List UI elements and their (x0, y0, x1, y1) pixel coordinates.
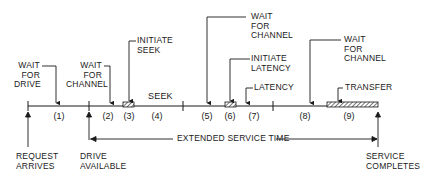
segment-label-8: (8) (300, 111, 311, 121)
initiate-seek-block (123, 102, 134, 107)
latency-label: LATENCY (254, 83, 294, 93)
segment-label-6: (6) (225, 111, 236, 121)
segment-label-3: (3) (124, 111, 135, 121)
request-arrives-label: REQUEST ARRIVES (16, 152, 59, 171)
initiate-seek-label: INITIATE SEEK (137, 36, 173, 55)
drive-available-label: DRIVE AVAILABLE (80, 152, 126, 171)
transfer-block (327, 102, 378, 107)
main-timeline (28, 101, 378, 111)
wait-for-channel-label-2: WAIT FOR CHANNEL (251, 12, 293, 41)
wait-for-channel-label-1: WAIT FOR CHANNEL (66, 61, 102, 90)
seek-inline-label: SEEK (148, 92, 173, 102)
segment-label-5: (5) (202, 111, 213, 121)
segment-label-4: (4) (152, 111, 163, 121)
wait-for-channel-label-3: WAIT FOR CHANNEL (344, 35, 386, 64)
extended-service-time-label: EXTENDED SERVICE TIME (177, 134, 290, 144)
segment-label-2: (2) (103, 111, 114, 121)
segment-label-7: (7) (249, 111, 260, 121)
initiate-latency-block (225, 102, 236, 107)
segment-label-9: (9) (344, 111, 355, 121)
service-completes-label: SERVICE COMPLETES (366, 152, 420, 171)
segment-label-1: (1) (54, 111, 65, 121)
initiate-latency-label: INITIATE LATENCY (251, 54, 291, 73)
wait-for-drive-label: WAIT FOR DRIVE (14, 61, 40, 90)
transfer-label: TRANSFER (345, 83, 392, 93)
